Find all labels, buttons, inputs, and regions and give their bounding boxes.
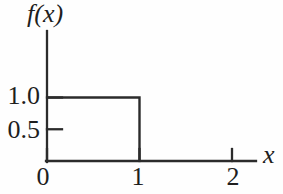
x-tick-label-2: 2 — [218, 164, 248, 190]
y-tick-label-0-5: 0.5 — [2, 117, 40, 143]
uniform-density-figure: f(x) x 1.0 0.5 0 1 2 — [0, 0, 283, 194]
y-axis-label: f(x) — [27, 1, 63, 27]
x-tick-label-1: 1 — [123, 164, 153, 190]
y-tick-label-1-0: 1.0 — [2, 83, 40, 109]
x-tick-label-0: 0 — [28, 164, 58, 190]
x-axis-label: x — [263, 142, 275, 168]
